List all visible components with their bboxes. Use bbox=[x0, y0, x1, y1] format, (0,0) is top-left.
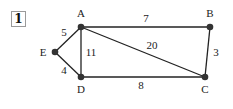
edge-weight-a-d: 11 bbox=[86, 46, 97, 58]
node-label-a: A bbox=[77, 7, 85, 19]
edge-weight-d-c: 8 bbox=[138, 79, 144, 91]
edge-b-c bbox=[205, 27, 210, 77]
weighted-graph: 720115384ABCDE bbox=[0, 0, 233, 109]
node-e bbox=[52, 49, 59, 56]
node-label-d: D bbox=[77, 83, 85, 95]
labels-layer: 720115384ABCDE bbox=[40, 7, 220, 95]
node-label-e: E bbox=[40, 46, 47, 58]
edge-weight-b-c: 3 bbox=[213, 46, 219, 58]
node-b bbox=[207, 24, 214, 31]
node-label-b: B bbox=[206, 7, 213, 19]
edge-a-c bbox=[81, 27, 205, 77]
edge-weight-a-c: 20 bbox=[147, 39, 159, 51]
edge-weight-a-e: 5 bbox=[61, 26, 67, 38]
edge-e-d bbox=[55, 52, 81, 77]
edges-layer bbox=[55, 27, 210, 77]
node-label-c: C bbox=[201, 83, 208, 95]
node-c bbox=[202, 74, 209, 81]
edge-a-e bbox=[55, 27, 81, 52]
node-d bbox=[78, 74, 85, 81]
edge-weight-a-b: 7 bbox=[143, 12, 149, 24]
node-a bbox=[78, 24, 85, 31]
edge-weight-e-d: 4 bbox=[61, 64, 67, 76]
